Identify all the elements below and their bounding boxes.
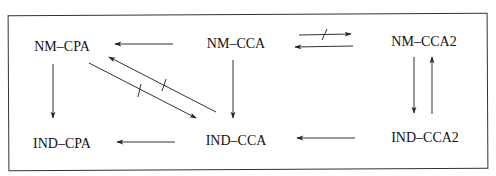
arrow-indcca-to-nmcpa — [109, 57, 216, 112]
separation-mark-nmcpa-indcca — [138, 84, 141, 97]
node-nm-cpa: NM–CPA — [34, 39, 90, 55]
node-ind-cca: IND–CCA — [206, 133, 267, 149]
arrow-nmcpa-to-indcca — [89, 63, 196, 118]
node-ind-cca2: IND–CCA2 — [391, 130, 459, 146]
arrow-nmcca2-to-nmcca — [295, 46, 353, 47]
node-nm-cca: NM–CCA — [207, 36, 265, 52]
node-ind-cpa: IND–CPA — [33, 136, 91, 152]
node-nm-cca2: NM–CCA2 — [391, 34, 456, 50]
